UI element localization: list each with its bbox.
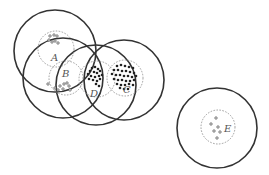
cluster-label-c: C [123, 84, 131, 95]
data-point [132, 67, 135, 70]
data-point [69, 89, 71, 91]
data-point [91, 67, 94, 70]
data-point [121, 70, 124, 73]
data-point [62, 88, 64, 90]
data-point [123, 75, 126, 78]
data-point [133, 72, 136, 75]
data-point [119, 87, 122, 90]
data-point [93, 71, 96, 74]
coverage-circles [14, 10, 257, 168]
data-point [116, 83, 119, 86]
data-point [95, 83, 98, 86]
data-point [48, 39, 50, 41]
coverage-circle-c [84, 40, 164, 120]
data-point [88, 78, 91, 81]
data-point [94, 66, 97, 69]
cluster-label-e: E [223, 123, 232, 134]
data-point [113, 78, 116, 81]
data-point [120, 64, 123, 67]
data-point [57, 89, 59, 91]
data-point [92, 79, 95, 82]
data-point [99, 70, 102, 73]
data-point [59, 85, 61, 87]
data-point [111, 73, 114, 76]
data-point [87, 73, 90, 76]
data-point [90, 75, 93, 78]
data-point [56, 35, 58, 37]
data-point [213, 130, 215, 132]
data-point [135, 75, 138, 78]
data-point [96, 72, 99, 75]
data-point [99, 78, 102, 81]
data-point [119, 74, 122, 77]
data-point [53, 34, 55, 36]
data-point [120, 84, 123, 87]
cluster-label-a: A [50, 52, 58, 63]
data-point [125, 80, 128, 83]
data-point [101, 74, 104, 77]
data-point [63, 83, 65, 85]
data-point [113, 69, 116, 72]
cluster-label-b: B [61, 68, 69, 79]
data-point [98, 75, 101, 78]
data-point [117, 79, 120, 82]
data-point [94, 76, 97, 79]
cluster-label-d: D [89, 88, 98, 99]
cluster-diagram: ABDCE [0, 0, 269, 175]
data-point [217, 126, 219, 128]
data-point [219, 131, 221, 133]
data-point [210, 123, 212, 125]
data-point [128, 66, 131, 69]
points-d [87, 66, 104, 88]
data-point [51, 41, 53, 43]
data-point [57, 42, 59, 44]
data-point [124, 65, 127, 68]
data-point [98, 85, 101, 88]
data-point [131, 76, 134, 79]
data-point [116, 65, 119, 68]
data-point [115, 74, 118, 77]
data-point [54, 40, 56, 42]
data-point [127, 75, 130, 78]
data-point [96, 80, 99, 83]
data-point [49, 35, 51, 37]
cluster-labels: ABDCE [50, 52, 232, 134]
data-point [97, 68, 100, 71]
data-point [125, 70, 128, 73]
data-point [117, 69, 120, 72]
data-point [89, 70, 92, 73]
data-point [215, 117, 217, 119]
data-points [47, 34, 221, 139]
data-point [68, 85, 70, 87]
data-point [66, 82, 68, 84]
data-point [132, 84, 135, 87]
data-point [133, 79, 136, 82]
points-e [210, 117, 221, 139]
data-point [121, 79, 124, 82]
data-point [216, 137, 218, 139]
data-point [47, 83, 49, 85]
data-point [129, 80, 132, 83]
data-point [129, 71, 132, 74]
data-point [54, 87, 56, 89]
